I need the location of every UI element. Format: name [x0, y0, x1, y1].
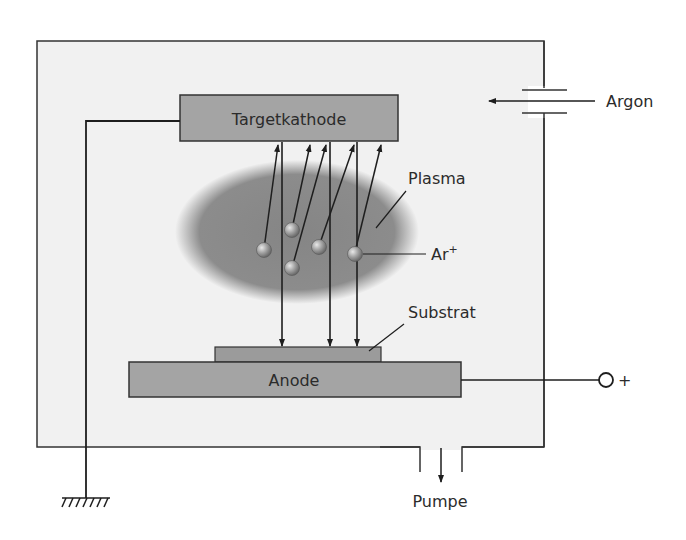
substrate-label: Substrat — [408, 303, 476, 322]
argon-ion-icon — [285, 223, 300, 238]
ground-symbol-icon — [62, 498, 110, 507]
argon-ion-icon — [257, 243, 272, 258]
pump-outlet — [380, 446, 544, 482]
positive-terminal-icon — [599, 373, 613, 387]
positive-terminal-label: + — [618, 371, 631, 390]
anode-label: Anode — [269, 371, 320, 390]
argon-ion-icon — [312, 240, 327, 255]
sputtering-diagram: Argon Targetkathode Plasma — [0, 0, 686, 540]
target-cathode-label: Targetkathode — [231, 110, 347, 129]
plasma-label: Plasma — [408, 169, 466, 188]
substrate — [215, 347, 381, 362]
gas-label: Argon — [606, 92, 653, 111]
argon-ion-icon — [348, 247, 363, 262]
pump-label: Pumpe — [412, 492, 467, 511]
argon-ion-icon — [285, 261, 300, 276]
